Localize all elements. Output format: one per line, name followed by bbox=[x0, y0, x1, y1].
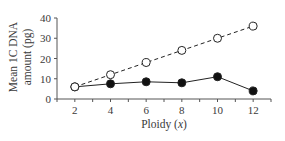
open-circle-marker bbox=[71, 83, 79, 91]
axes: 01020304024681012 bbox=[40, 12, 271, 116]
y-tick-label: 30 bbox=[40, 32, 52, 44]
y-tick-label: 10 bbox=[40, 73, 52, 85]
filled-circle-marker bbox=[178, 79, 186, 87]
x-tick-label: 8 bbox=[179, 104, 185, 116]
y-axis-title-line2: amount (pg) bbox=[21, 29, 34, 86]
open-circle-marker bbox=[214, 34, 222, 42]
series-observed bbox=[75, 77, 253, 91]
series-line bbox=[75, 26, 253, 87]
filled-circle-marker bbox=[249, 87, 257, 95]
x-tick-label: 10 bbox=[212, 104, 224, 116]
series-expected bbox=[75, 26, 253, 87]
x-tick-label: 6 bbox=[143, 104, 149, 116]
open-circle-marker bbox=[107, 71, 115, 79]
open-circle-marker bbox=[142, 59, 150, 67]
y-tick-label: 0 bbox=[46, 93, 52, 105]
filled-circle-marker bbox=[142, 78, 150, 86]
x-tick-label: 12 bbox=[248, 104, 259, 116]
x-tick-label: 4 bbox=[108, 104, 114, 116]
ploidy-dna-chart: Mean 1C DNA amount (pg) 0102030402468101… bbox=[0, 0, 285, 141]
filled-circle-marker bbox=[107, 80, 115, 88]
open-circle-marker bbox=[178, 46, 186, 54]
y-tick-label: 20 bbox=[40, 53, 52, 65]
x-tick-label: 2 bbox=[72, 104, 78, 116]
y-axis-title: Mean 1C DNA amount (pg) bbox=[7, 21, 34, 92]
series-line bbox=[75, 77, 253, 91]
x-axis-title: Ploidy (x) bbox=[141, 118, 187, 131]
filled-circle-marker bbox=[214, 73, 222, 81]
y-tick-label: 40 bbox=[40, 12, 52, 24]
series-layer bbox=[71, 22, 257, 95]
open-circle-marker bbox=[249, 22, 257, 30]
y-axis-title-line1: Mean 1C DNA bbox=[7, 21, 19, 92]
